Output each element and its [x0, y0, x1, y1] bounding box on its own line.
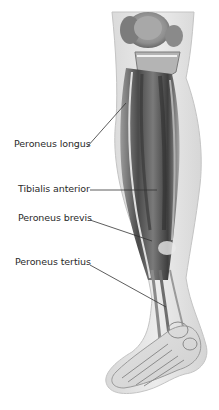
label-peroneus-brevis: Peroneus brevis: [18, 212, 92, 224]
label-peroneus-tertius: Peroneus tertius: [15, 256, 91, 268]
lower-leg-muscles: [120, 68, 179, 280]
leg-illustration: [0, 0, 219, 410]
label-tibialis-anterior: Tibialis anterior: [18, 183, 90, 195]
label-peroneus-longus: Peroneus longus: [14, 138, 91, 150]
